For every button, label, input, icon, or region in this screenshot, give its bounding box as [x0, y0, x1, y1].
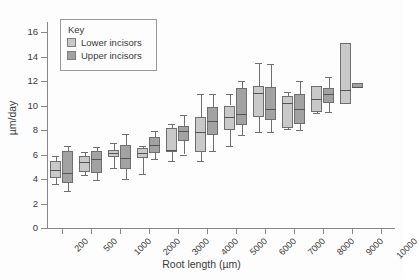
whisker-cap-lower: [284, 129, 291, 130]
x-axis-title: Root length (µm): [0, 258, 403, 270]
x-tick-label: 1000: [131, 236, 152, 257]
legend-swatch-upper-incisors: [67, 51, 76, 60]
whisker-cap-upper: [325, 77, 332, 78]
whisker-cap-upper: [255, 63, 262, 64]
legend-title: Key: [68, 24, 150, 35]
whisker-cap-lower: [168, 161, 175, 162]
whisker-lower: [97, 173, 98, 180]
whisker-lower: [184, 141, 185, 154]
whisker-cap-upper: [226, 94, 233, 95]
box-body: [340, 43, 351, 104]
x-tick: [120, 229, 121, 234]
legend-item-lower-incisors[interactable]: Lower incisors: [67, 37, 150, 48]
box-body: [91, 151, 102, 173]
whisker-cap-upper: [151, 131, 158, 132]
whisker-cap-lower: [313, 113, 320, 114]
x-tick: [62, 229, 63, 234]
whisker-lower: [68, 183, 69, 192]
whisker-upper: [271, 64, 272, 87]
whisker-cap-lower: [226, 146, 233, 147]
whisker-upper: [259, 63, 260, 86]
median-line: [62, 173, 73, 174]
x-tick: [381, 229, 382, 234]
whisker-cap-upper: [139, 146, 146, 147]
whisker-cap-upper: [81, 152, 88, 153]
y-tick: [41, 228, 47, 229]
whisker-cap-upper: [296, 81, 303, 82]
median-line: [265, 109, 276, 110]
x-axis-line: [47, 228, 395, 229]
legend-label-lower-incisors: Lower incisors: [81, 37, 142, 48]
box-body: [236, 88, 247, 125]
whisker-lower: [114, 157, 115, 168]
box-body: [120, 145, 131, 170]
whisker-lower: [172, 152, 173, 161]
median-line: [323, 94, 334, 95]
whisker-upper: [213, 94, 214, 106]
whisker-cap-lower: [197, 161, 204, 162]
median-line: [352, 87, 363, 88]
whisker-upper: [230, 94, 231, 105]
median-line: [137, 153, 148, 154]
whisker-cap-upper: [197, 94, 204, 95]
whisker-cap-lower: [255, 132, 262, 133]
whisker-cap-upper: [180, 115, 187, 116]
y-tick-label: 16: [0, 27, 38, 37]
box-body: [323, 88, 334, 103]
whisker-cap-upper: [64, 146, 71, 147]
x-tick: [352, 229, 353, 234]
whisker-lower: [259, 117, 260, 133]
whisker-cap-lower: [325, 112, 332, 113]
x-tick-label: 9000: [363, 236, 384, 257]
box-body: [265, 87, 276, 120]
x-tick: [265, 229, 266, 234]
whisker-upper: [300, 81, 301, 94]
whisker-upper: [329, 77, 330, 88]
box-body: [79, 156, 90, 172]
whisker-cap-lower: [209, 151, 216, 152]
box-body: [253, 86, 264, 117]
x-tick-label: 7000: [305, 236, 326, 257]
x-tick: [207, 229, 208, 234]
whisker-lower: [201, 152, 202, 161]
median-line: [224, 117, 235, 118]
x-tick: [91, 229, 92, 234]
y-tick-label: 2: [0, 199, 38, 209]
whisker-cap-lower: [296, 130, 303, 131]
whisker-cap-lower: [267, 132, 274, 133]
whisker-cap-lower: [122, 179, 129, 180]
whisker-cap-lower: [238, 135, 245, 136]
median-line: [311, 99, 322, 100]
y-tick-label: 0: [0, 223, 38, 233]
whisker-cap-upper: [52, 156, 59, 157]
whisker-lower: [126, 169, 127, 179]
whisker-upper: [126, 134, 127, 145]
whisker-cap-lower: [180, 155, 187, 156]
median-line: [120, 158, 131, 159]
whisker-lower: [242, 125, 243, 135]
whisker-upper: [201, 94, 202, 116]
legend-label-upper-incisors: Upper incisors: [81, 50, 142, 61]
x-tick-label: 6000: [276, 236, 297, 257]
median-line: [108, 153, 119, 154]
legend-item-upper-incisors[interactable]: Upper incisors: [67, 50, 150, 61]
box-body: [62, 151, 73, 183]
x-tick: [323, 229, 324, 234]
whisker-cap-lower: [81, 175, 88, 176]
whisker-cap-upper: [238, 81, 245, 82]
median-line: [50, 170, 61, 171]
x-tick-label: 5000: [247, 236, 268, 257]
y-tick-label: 14: [0, 52, 38, 62]
x-tick: [178, 229, 179, 234]
whisker-cap-lower: [110, 168, 117, 169]
whisker-upper: [184, 115, 185, 126]
whisker-cap-lower: [151, 159, 158, 160]
median-line: [91, 159, 102, 160]
median-line: [236, 114, 247, 115]
whisker-cap-upper: [110, 143, 117, 144]
whisker-cap-upper: [122, 134, 129, 135]
legend: Key Lower incisors Upper incisors: [60, 19, 157, 71]
whisker-lower: [213, 135, 214, 151]
whisker-upper: [242, 81, 243, 88]
